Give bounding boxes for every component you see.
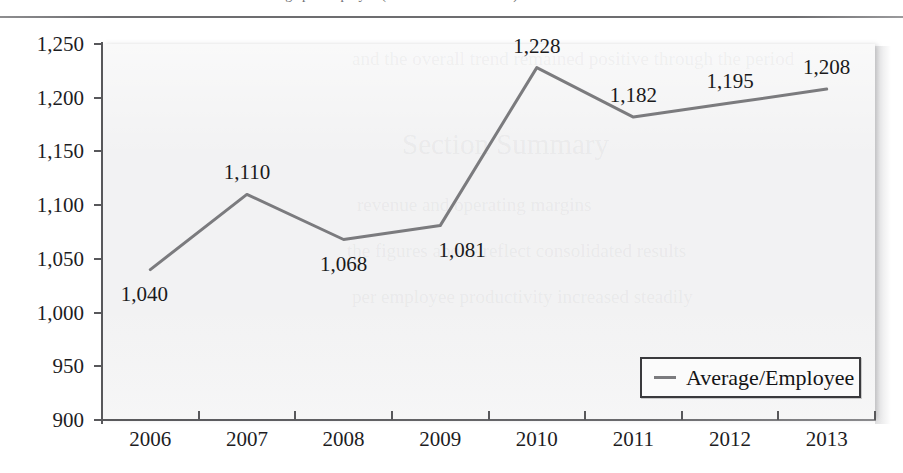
y-tick-label: 950 (22, 356, 84, 377)
y-tick (94, 150, 102, 152)
data-point-label: 1,110 (224, 162, 270, 183)
data-point-label: 1,182 (610, 85, 657, 106)
y-tick-label: 1,100 (22, 195, 84, 216)
data-point-label: 1,195 (706, 71, 753, 92)
x-tick-label: 2008 (296, 429, 392, 450)
x-tick-label: 2009 (392, 429, 488, 450)
data-point-label: 1,081 (439, 240, 486, 261)
data-point-label: 1,068 (320, 254, 367, 275)
x-tick-label: 2013 (779, 429, 875, 450)
y-tick (94, 365, 102, 367)
x-tick-label: 2006 (102, 429, 198, 450)
legend-line-swatch (654, 376, 676, 379)
y-tick-label: 1,200 (22, 88, 84, 109)
chart-legend: Average/Employee (640, 357, 861, 398)
chart-page: average per employee (in thousands of do… (0, 0, 903, 473)
y-tick-label: 1,000 (22, 303, 84, 324)
plot-right-shadow (875, 46, 891, 424)
y-tick (94, 204, 102, 206)
y-tick-label: 900 (22, 410, 84, 431)
y-tick (94, 43, 102, 45)
x-tick-label: 2011 (585, 429, 681, 450)
top-caption-text: average per employee (in thousands of do… (255, 0, 518, 3)
y-tick (94, 97, 102, 99)
x-tick-label: 2007 (199, 429, 295, 450)
y-tick-label: 1,150 (22, 141, 84, 162)
y-tick-label: 1,050 (22, 249, 84, 270)
data-point-label: 1,228 (513, 36, 560, 57)
y-tick (94, 258, 102, 260)
data-point-label: 1,040 (121, 284, 168, 305)
x-tick-label: 2010 (489, 429, 585, 450)
legend-entry-label: Average/Employee (686, 367, 854, 389)
x-tick-label: 2012 (682, 429, 778, 450)
y-tick (94, 312, 102, 314)
data-point-label: 1,208 (803, 57, 850, 78)
top-caption-strip: average per employee (in thousands of do… (0, 0, 903, 16)
top-horizontal-rule (0, 16, 903, 18)
y-tick-label: 1,250 (22, 34, 84, 55)
